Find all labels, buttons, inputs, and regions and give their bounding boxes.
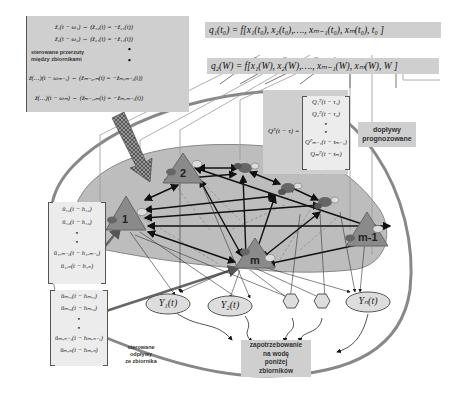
forecast-lhs: Qᴾ(t − τ) = (268, 127, 300, 135)
transfer-row: ẑ₂(t − ω₂) ⇔ (ẑ₂₁(t) = −ẑ₁₁(t)) (55, 35, 133, 42)
forecast-label: dopływy prognozowane (358, 122, 416, 147)
transfer-row: ẑ(…)(t − ωₘ₋₁) ⇔ (ẑₘ₋₂,ₘ(t) = −ẑₘ,ₘ₋₂(t)… (29, 74, 142, 82)
q2-equation-box: q₂(W) = f[x₁(W), x₂(W),…., xₘ₋₁(W), xₘ(W… (207, 58, 439, 74)
hex-node (314, 294, 330, 308)
q1-equation-box: q₁(t₀) = f[x₁(t₀), x₂(t₀),…., xₘ₋₁(t₀), … (205, 22, 441, 38)
demand-y2-label: Y₂(t) (210, 299, 250, 310)
forecast-matrix: Q₁ᴾ(t − τ₁) Q₂ᴾ(t − τ₂) • • Qᴾₘ₋₁(t − τₘ… (302, 96, 350, 170)
hex-node (283, 294, 299, 308)
ellipsis-dot: • (128, 45, 131, 54)
transfer-row: ẑ(…)(t − ωₘ) ⇔ (ẑₘ₋₁,ₘ(t) = −ẑₘ,ₘ₋₁(t)) (35, 94, 143, 102)
transfer-matrix-box: ẑ₁(t − ω₁) ⇔ (ẑ₁₂(t) = −ẑ₂₁(t)) ẑ₂(t − ω… (26, 16, 189, 112)
water-demand-box: zapotrzebowanie na wodę poniżej zbiornik… (241, 340, 311, 377)
reservoir-1-outflow-matrix: û₁₂(t − h₁₂) û₁₂(t − h₁₂) • • û₁,ₘ₋₂(t −… (48, 202, 106, 284)
outflow-label: sterowane odpływy ze zbiornika (118, 344, 164, 365)
reservoir-m-label: m (250, 254, 260, 266)
ellipsis-dot: • (128, 56, 131, 65)
transfer-row: ẑ₁(t − ω₁) ⇔ (ẑ₁₂(t) = −ẑ₂₁(t)) (55, 23, 133, 30)
reservoir-2-label: 2 (180, 167, 186, 179)
reservoir-m-outflow-matrix: ûₘ,₁(t − hₘ,₁) ûₘ,₂(t − hₘ,₂) • • ûₘ,ₙ₋₁… (50, 290, 108, 366)
reservoir-m-1-label: m-1 (358, 231, 378, 243)
q2-equation: q₂(W) = f[x₁(W), x₂(W),…., xₘ₋₁(W), xₘ(W… (207, 58, 439, 74)
q1-equation: q₁(t₀) = f[x₁(t₀), x₂(t₀),…., xₘ₋₁(t₀), … (205, 22, 441, 38)
reservoir-1-label: 1 (122, 213, 128, 225)
demand-y1-label: Y₁(t) (148, 297, 188, 308)
transfer-label: sterowane przerzuty między zbiornikami (31, 49, 84, 63)
demand-yn-label: Yₙ(t) (348, 295, 388, 306)
